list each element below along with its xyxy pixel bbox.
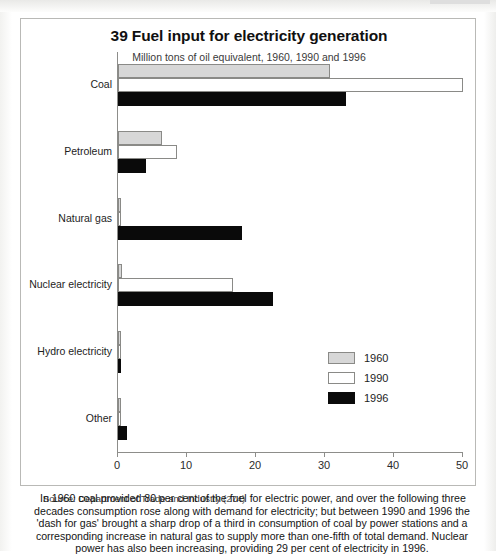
x-axis-tick-label: 0: [114, 459, 120, 471]
bar-group: Natural gas: [117, 198, 462, 240]
x-axis-tick-label: 40: [387, 459, 399, 471]
legend-item: 1960: [328, 349, 446, 366]
legend-label: 1990: [364, 372, 388, 384]
category-label: Other: [86, 412, 112, 424]
bar-1996: [118, 226, 242, 240]
legend-item: 1990: [328, 369, 446, 386]
caption-line-5: power has also been increasing, providin…: [26, 542, 478, 555]
figure-caption: In 1960 coal provided 80 per cent of the…: [26, 492, 478, 555]
bar-1960: [118, 264, 122, 278]
y-axis-line: [117, 52, 118, 452]
figure-frame: 39 Fuel input for electricity generation…: [20, 18, 476, 486]
bar-1990: [118, 212, 121, 226]
bar-1990: [118, 278, 233, 292]
caption-line-4: corresponding increase in natural gas to…: [26, 530, 478, 543]
scan-top-edge: [0, 0, 496, 12]
x-axis-tick: [324, 452, 325, 457]
caption-line-3: 'dash for gas' brought a sharp drop of a…: [26, 517, 478, 530]
bar-1960: [118, 131, 162, 145]
caption-line-1: In 1960 coal provided 80 per cent of the…: [26, 492, 478, 505]
x-axis-tick-label: 10: [180, 459, 192, 471]
scan-artifact-mark: [430, 0, 490, 4]
bar-1990: [118, 145, 177, 159]
bar-1996: [118, 426, 127, 440]
bar-1990: [118, 345, 121, 359]
chart-legend: 196019901996: [328, 349, 446, 409]
bar-group: Coal: [117, 64, 462, 106]
category-label: Petroleum: [64, 145, 112, 157]
bar-1996: [118, 92, 346, 106]
bar-1990: [118, 412, 121, 426]
legend-swatch: [328, 372, 355, 384]
bar-1996: [118, 359, 121, 373]
bar-1990: [118, 78, 463, 92]
legend-swatch: [328, 352, 355, 364]
bar-group: Petroleum: [117, 131, 462, 173]
x-axis-tick: [393, 452, 394, 457]
bar-1996: [118, 292, 273, 306]
legend-label: 1996: [364, 392, 388, 404]
bar-1960: [118, 331, 121, 345]
x-axis-tick: [117, 452, 118, 457]
bar-1960: [118, 398, 121, 412]
category-label: Natural gas: [58, 212, 112, 224]
x-axis-tick-label: 50: [456, 459, 468, 471]
x-axis-tick: [255, 452, 256, 457]
chart-title: 39 Fuel input for electricity generation: [21, 27, 477, 45]
category-label: Nuclear electricity: [29, 278, 112, 290]
bar-1960: [118, 198, 121, 212]
legend-item: 1996: [328, 389, 446, 406]
x-axis-tick-label: 30: [318, 459, 330, 471]
legend-label: 1960: [364, 352, 388, 364]
category-label: Hydro electricity: [37, 345, 112, 357]
category-label: Coal: [90, 78, 112, 90]
x-axis-tick-label: 20: [249, 459, 261, 471]
legend-swatch: [328, 392, 355, 404]
x-axis-tick: [462, 452, 463, 457]
x-axis-tick: [186, 452, 187, 457]
x-axis-line: [117, 452, 463, 453]
bar-group: Nuclear electricity: [117, 264, 462, 306]
bar-1996: [118, 159, 146, 173]
bar-1960: [118, 64, 330, 78]
caption-line-2: decades consumption rose along with dema…: [26, 505, 478, 518]
